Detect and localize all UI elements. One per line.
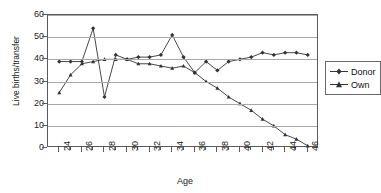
x-tick-major — [194, 147, 195, 152]
x-tick-label: 32 — [153, 141, 162, 151]
data-point-marker — [159, 53, 163, 57]
x-tick-major — [171, 147, 172, 152]
y-axis-tick-labels: 0102030405060 — [22, 0, 44, 193]
x-tick-major — [58, 147, 59, 152]
data-point-marker — [306, 53, 310, 57]
y-tick — [42, 81, 47, 82]
x-tick-label: 34 — [176, 141, 185, 151]
series-line-own — [59, 59, 307, 145]
data-point-marker — [182, 64, 186, 68]
triangle-marker-icon — [329, 79, 349, 90]
data-point-marker — [91, 26, 95, 30]
gridline — [48, 104, 317, 105]
data-point-marker — [114, 53, 118, 57]
chart-legend: Donor Own — [325, 61, 381, 95]
plot-area — [47, 14, 318, 147]
x-tick-major — [307, 147, 308, 152]
x-tick-label: 28 — [108, 141, 117, 151]
gridline — [48, 126, 317, 127]
gridline — [48, 82, 317, 83]
legend-item-donor: Donor — [329, 65, 376, 78]
data-point-marker — [294, 51, 298, 55]
x-tick-label: 46 — [311, 141, 320, 151]
x-tick-major — [149, 147, 150, 152]
data-point-marker — [272, 53, 276, 57]
x-tick-major — [126, 147, 127, 152]
x-axis-title: Age — [150, 176, 220, 186]
x-tick-major — [284, 147, 285, 152]
gridline — [48, 15, 317, 16]
gridline — [48, 59, 317, 60]
series-line-donor — [59, 28, 307, 97]
x-tick-major — [262, 147, 263, 152]
y-tick — [42, 103, 47, 104]
data-point-marker — [102, 95, 106, 99]
legend-item-own: Own — [329, 78, 376, 91]
x-tick-label: 36 — [198, 141, 207, 151]
y-axis-title: Live births/transfer — [11, 11, 21, 131]
x-tick-major — [216, 147, 217, 152]
diamond-marker-icon — [329, 66, 349, 77]
x-tick-label: 30 — [131, 141, 140, 151]
data-point-marker — [249, 108, 253, 112]
data-point-marker — [283, 51, 287, 55]
y-tick — [42, 58, 47, 59]
x-tick-label: 44 — [289, 141, 298, 151]
y-tick — [42, 147, 47, 148]
x-tick-label: 26 — [85, 141, 94, 151]
y-tick — [42, 36, 47, 37]
gridline — [48, 37, 317, 38]
legend-label-own: Own — [349, 80, 370, 90]
y-tick — [42, 125, 47, 126]
data-point-marker — [215, 86, 219, 90]
x-tick-major — [81, 147, 82, 152]
x-tick-label: 42 — [266, 141, 275, 151]
x-tick-label: 24 — [63, 141, 72, 151]
x-tick-major — [103, 147, 104, 152]
x-tick-label: 40 — [243, 141, 252, 151]
x-tick-label: 38 — [221, 141, 230, 151]
x-tick-major — [239, 147, 240, 152]
y-tick — [42, 14, 47, 15]
data-point-marker — [260, 51, 264, 55]
legend-label-donor: Donor — [349, 67, 376, 77]
